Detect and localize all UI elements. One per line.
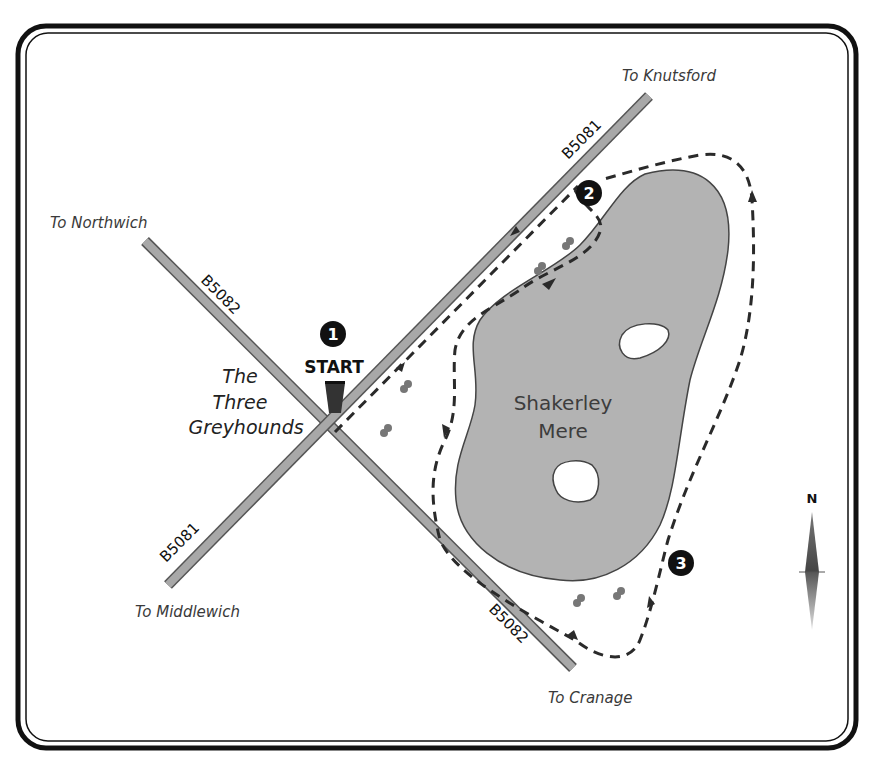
tree-icon [613, 587, 625, 600]
pub-name-line3: Greyhounds [188, 416, 303, 438]
pub-name-line1: The [222, 365, 257, 387]
start-label: START [304, 357, 364, 377]
waypoint-1: 1 [320, 321, 346, 347]
svg-text:2: 2 [583, 184, 594, 203]
destination-middlewich: To Middlewich [135, 603, 240, 621]
tree-icon [380, 424, 392, 437]
destination-northwich: To Northwich [50, 214, 147, 232]
tree-icon [400, 380, 412, 393]
lake-shakerley-mere [455, 170, 728, 581]
waypoint-2: 2 [576, 180, 602, 206]
road-label-b5081-north: B5081 [558, 116, 605, 163]
svg-text:3: 3 [675, 554, 686, 573]
tree-icon [562, 237, 574, 250]
svg-text:1: 1 [327, 325, 338, 344]
tree-icon [573, 594, 585, 607]
destination-cranage: To Cranage [548, 689, 633, 707]
north-arrow-icon: N [799, 491, 825, 630]
svg-text:N: N [807, 491, 818, 506]
walk-map: 1 2 3 START The Three Greyhounds Shakerl… [0, 0, 869, 759]
lake-name-line1: Shakerley [514, 391, 613, 415]
arrow-icon [748, 190, 757, 202]
destination-knutsford: To Knutsford [622, 67, 716, 85]
island-south [553, 461, 599, 502]
lake-name-line2: Mere [538, 419, 588, 443]
waypoint-3: 3 [668, 550, 694, 576]
pub-name-line2: Three [213, 391, 268, 413]
